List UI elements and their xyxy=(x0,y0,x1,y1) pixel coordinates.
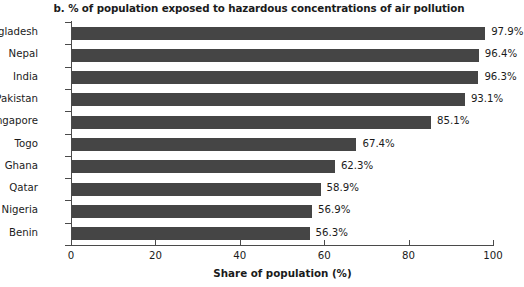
bar-row: Pakistan93.1% xyxy=(71,89,493,111)
x-axis-title: Share of population (%) xyxy=(71,267,494,279)
category-label: India xyxy=(13,70,38,84)
bar xyxy=(72,183,321,196)
category-label: Singapore xyxy=(0,114,38,128)
bar-value-label: 85.1% xyxy=(437,114,469,128)
bar-value-label: 58.9% xyxy=(327,181,359,195)
plot-area: Bangladesh97.9%Nepal96.4%India96.3%Pakis… xyxy=(71,22,493,245)
x-axis-tick-label: 40 xyxy=(233,249,246,263)
bar-value-label: 97.9% xyxy=(491,25,523,39)
category-label: Qatar xyxy=(9,181,38,195)
bar xyxy=(72,93,465,106)
category-label: Benin xyxy=(9,226,38,240)
bar xyxy=(72,138,356,151)
bar xyxy=(72,71,478,84)
bar xyxy=(72,205,312,218)
x-axis-line xyxy=(71,245,494,246)
x-axis-tick-label: 80 xyxy=(402,249,415,263)
bar-value-label: 56.3% xyxy=(316,226,348,240)
bar-row: India96.3% xyxy=(71,67,493,89)
bar-value-label: 67.4% xyxy=(362,137,394,151)
bar-row: Nepal96.4% xyxy=(71,44,493,66)
category-label: Nigeria xyxy=(2,203,38,217)
bar-row: Nigeria56.9% xyxy=(71,200,493,222)
category-label: Ghana xyxy=(5,159,38,173)
x-axis-tick-label: 0 xyxy=(68,249,74,263)
x-axis-tick-label: 20 xyxy=(149,249,162,263)
bar-value-label: 56.9% xyxy=(318,203,350,217)
x-axis-tick-label: 60 xyxy=(318,249,331,263)
bar-value-label: 62.3% xyxy=(341,159,373,173)
chart-title: b. % of population exposed to hazardous … xyxy=(0,2,518,14)
category-label: Pakistan xyxy=(0,92,38,106)
bar-value-label: 96.4% xyxy=(485,47,517,61)
category-label: Nepal xyxy=(9,47,38,61)
bar-row: Ghana62.3% xyxy=(71,156,493,178)
bar-value-label: 93.1% xyxy=(471,92,503,106)
bar xyxy=(72,49,479,62)
bar-row: Bangladesh97.9% xyxy=(71,22,493,44)
bar-value-label: 96.3% xyxy=(484,70,516,84)
bar-row: Qatar58.9% xyxy=(71,178,493,200)
bar xyxy=(72,27,485,40)
bar xyxy=(72,227,310,240)
x-axis-tick xyxy=(493,240,494,246)
bar-row: Benin56.3% xyxy=(71,223,493,245)
bar-row: Togo67.4% xyxy=(71,134,493,156)
bar xyxy=(72,116,431,129)
bar-row: Singapore85.1% xyxy=(71,111,493,133)
x-axis-tick-label: 100 xyxy=(483,249,502,263)
bar xyxy=(72,160,335,173)
category-label: Togo xyxy=(15,137,38,151)
category-label: Bangladesh xyxy=(0,25,38,39)
